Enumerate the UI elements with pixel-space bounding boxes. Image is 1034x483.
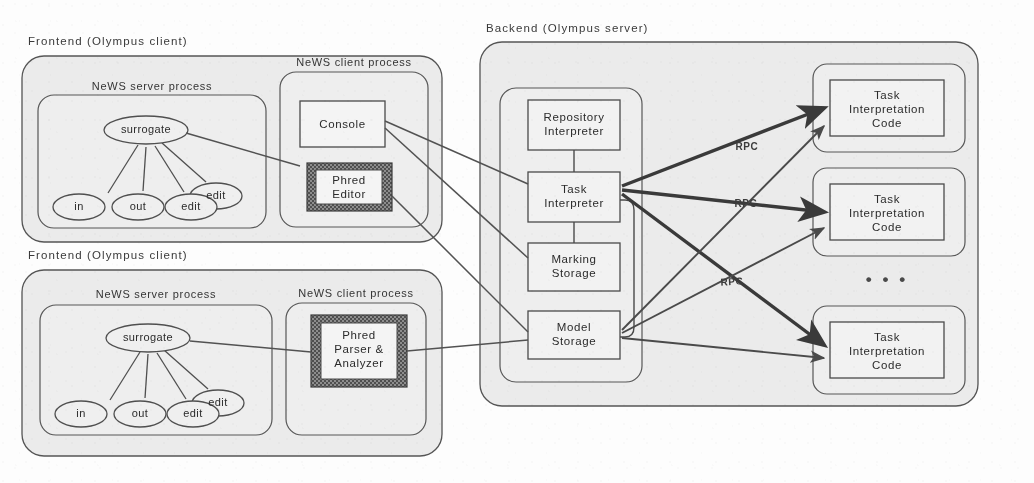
link-console-to-task [385, 121, 528, 184]
link-parser-to-model [407, 340, 528, 351]
rpc-arrow-task-to-tic3 [622, 194, 824, 345]
node-label-in-top: in [53, 200, 105, 213]
group-title-news-client-bottom: NeWS client process [286, 287, 426, 300]
group-title-news-server-top: NeWS server process [38, 80, 266, 93]
box-label-phred-editor: Phred Editor [316, 173, 382, 201]
box-label-repository-interpreter: Repository Interpreter [528, 110, 620, 138]
link-phred-editor-to-model [392, 196, 528, 332]
link-model-to-tic3 [622, 338, 824, 358]
group-title-news-client-top: NeWS client process [280, 56, 428, 69]
link-model-to-tic1 [622, 126, 824, 330]
box-label-tic-3: Task Interpretation Code [830, 330, 944, 372]
edge-label-rpc-3: RPC [715, 275, 750, 290]
edge-label-rpc-1: RPC [730, 141, 764, 153]
group-title-news-server-bottom: NeWS server process [40, 288, 272, 301]
node-label-edit2-bottom: edit [192, 396, 244, 409]
rpc-arrow-task-to-tic2 [622, 190, 824, 212]
group-news-client-top [280, 72, 428, 227]
tic-ellipsis: • • • [847, 270, 927, 291]
box-label-marking-storage: Marking Storage [528, 252, 620, 280]
box-label-tic-2: Task Interpretation Code [830, 192, 944, 234]
node-label-edit2-top: edit [190, 189, 242, 202]
box-label-tic-1: Task Interpretation Code [830, 88, 944, 130]
box-label-model-storage: Model Storage [528, 320, 620, 348]
panel-title-backend: Backend (Olympus server) [486, 21, 649, 35]
panel-title-frontend-top: Frontend (Olympus client) [28, 34, 188, 48]
node-label-in-bottom: in [55, 407, 107, 420]
diagram-scene: Frontend (Olympus client) Frontend (Olym… [0, 0, 1034, 483]
edge-label-rpc-2: RPC [729, 198, 763, 210]
box-label-task-interpreter: Task Interpreter [528, 182, 620, 210]
surrogate-tree-top [108, 143, 206, 193]
node-label-surrogate-top: surrogate [104, 123, 188, 136]
link-console-to-marking [385, 128, 528, 258]
diagram-canvas: Frontend (Olympus client) Frontend (Olym… [0, 0, 1034, 483]
node-label-out-top: out [112, 200, 164, 213]
link-surrogate-bottom-to-parser [190, 341, 311, 352]
link-surrogate-top-to-console [186, 133, 300, 166]
surrogate-tree-bottom [110, 350, 208, 400]
box-label-console: Console [300, 117, 385, 131]
node-label-out-bottom: out [114, 407, 166, 420]
edge-task-to-model [620, 200, 634, 337]
rpc-arrow-task-to-tic1 [622, 108, 824, 186]
panel-title-frontend-bottom: Frontend (Olympus client) [28, 248, 188, 262]
node-label-surrogate-bottom: surrogate [106, 331, 190, 344]
box-label-phred-parser: Phred Parser & Analyzer [321, 328, 397, 370]
